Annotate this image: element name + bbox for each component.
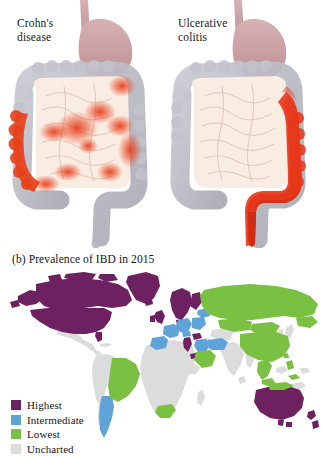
legend-swatch-highest — [11, 400, 21, 410]
panel-a-illustrations: Crohn's disease Ulcerative colitis — [0, 0, 323, 248]
legend-label-lowest: Lowest — [27, 428, 60, 440]
legend-item-highest: Highest — [11, 398, 84, 412]
legend-item-uncharted: Uncharted — [11, 442, 84, 456]
legend-swatch-intermediate — [11, 415, 21, 425]
legend-swatch-lowest — [11, 429, 21, 439]
ulcerative-colitis-label: Ulcerative colitis — [178, 17, 227, 44]
crohns-disease-label: Crohn's disease — [17, 17, 53, 44]
legend-label-uncharted: Uncharted — [27, 443, 74, 455]
legend-label-intermediate: Intermediate — [27, 414, 84, 426]
small-intestine-shape — [192, 76, 288, 188]
panel-b-caption: (b) Prevalence of IBD in 2015 — [12, 253, 154, 265]
legend-item-lowest: Lowest — [11, 427, 84, 441]
legend-item-intermediate: Intermediate — [11, 413, 84, 427]
legend-swatch-uncharted — [11, 444, 21, 454]
world-map-container: Highest Intermediate Lowest Uncharted — [0, 272, 323, 442]
map-legend: Highest Intermediate Lowest Uncharted — [11, 398, 84, 456]
panel-b-world-map: (b) Prevalence of IBD in 2015 — [0, 248, 323, 442]
legend-label-highest: Highest — [27, 399, 62, 411]
